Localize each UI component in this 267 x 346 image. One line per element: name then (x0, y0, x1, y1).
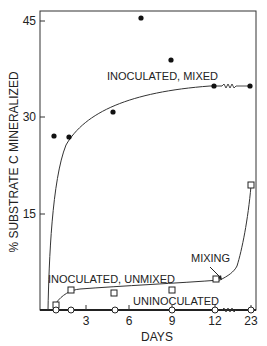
label-mixing: MIXING (191, 252, 230, 264)
y-tick-15: 15 (23, 207, 37, 221)
x-tick-12: 12 (208, 314, 222, 328)
unmixed-curve (56, 186, 251, 303)
axis-break-mixed (222, 84, 250, 88)
label-uninoculated: UNINOCULATED (133, 295, 219, 307)
plot-frame (40, 11, 256, 310)
y-tick-45: 45 (23, 14, 37, 28)
y-tick-30: 30 (23, 110, 37, 124)
x-tick-3: 3 (83, 314, 90, 328)
label-inoculated-mixed: INOCULATED, MIXED (107, 70, 218, 82)
label-inoculated-unmixed: INOCULATED, UNMIXED (48, 273, 175, 285)
y-axis-label: % SUBSTRATE C MINERALIZED (7, 71, 21, 252)
x-tick-23: 23 (244, 314, 258, 328)
x-tick-6: 6 (126, 314, 133, 328)
x-tick-9: 9 (169, 314, 176, 328)
x-axis-label: DAYS (141, 330, 173, 344)
chart: 45 30 15 3 6 9 12 23 DAYS % SUBSTRATE C … (0, 0, 267, 346)
